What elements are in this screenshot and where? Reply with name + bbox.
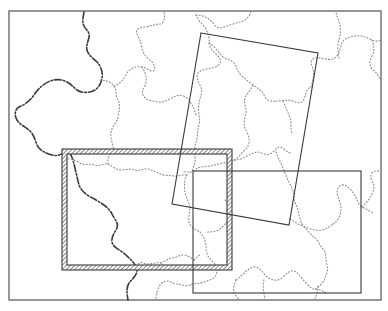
hatched-footprint	[62, 149, 232, 270]
map-canvas	[0, 0, 388, 311]
